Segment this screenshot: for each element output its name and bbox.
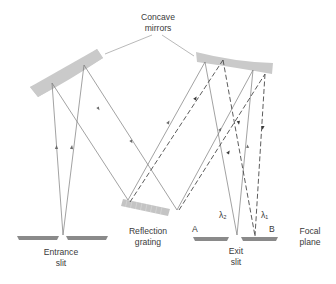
label-line: plane bbox=[292, 237, 328, 248]
exit-slit-right-jaw bbox=[241, 237, 278, 241]
lambda-2-label: λ₂ bbox=[219, 210, 227, 221]
label-line: Exit bbox=[216, 246, 256, 257]
exit-slit-left-jaw bbox=[193, 237, 229, 241]
entrance-slit-left-jaw bbox=[17, 236, 59, 240]
focal-plane-label: Focal plane bbox=[292, 226, 328, 248]
point-a-label: A bbox=[192, 224, 198, 235]
right-concave-mirror bbox=[196, 52, 273, 74]
lambda-1-label: λ₁ bbox=[261, 210, 268, 221]
point-b-label: B bbox=[269, 224, 275, 235]
label-line: slit bbox=[31, 258, 91, 269]
label-line: Focal bbox=[292, 226, 328, 237]
exit-slit-label: Exit slit bbox=[216, 246, 256, 268]
reflection-grating bbox=[121, 199, 170, 216]
entrance-slit-right-jaw bbox=[66, 236, 108, 240]
label-line: grating bbox=[118, 237, 178, 248]
label-line: slit bbox=[216, 257, 256, 268]
entrance-slit-label: Entrance slit bbox=[31, 247, 91, 269]
label-line: Concave bbox=[128, 12, 188, 23]
reflection-grating-label: Reflection grating bbox=[118, 226, 178, 248]
concave-mirrors-label: Concave mirrors bbox=[128, 12, 188, 34]
label-line: Entrance bbox=[31, 247, 91, 258]
label-line: Reflection bbox=[118, 226, 178, 237]
label-line: mirrors bbox=[128, 23, 188, 34]
